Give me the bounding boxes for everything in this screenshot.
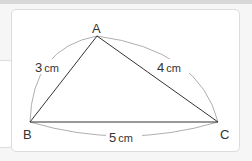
side-label-ab: 3cm: [35, 60, 59, 75]
side-label-bc: 5cm: [109, 130, 133, 145]
vertex-label-a: A: [92, 21, 101, 36]
side-label-ac: 4cm: [157, 60, 181, 75]
triangle-abc: [30, 36, 218, 122]
vertex-label-b: B: [23, 127, 32, 142]
vertex-label-c: C: [220, 127, 229, 142]
triangle-diagram: A B C 3cm 4cm 5cm: [0, 0, 252, 161]
